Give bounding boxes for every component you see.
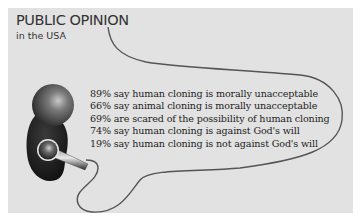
statement-text: say human cloning is morally unacceptabl…: [114, 88, 318, 99]
statement-text: say human cloning is against God's will: [114, 125, 300, 136]
page-subtitle: in the USA: [16, 30, 66, 42]
page-title: PUBLIC OPINION: [16, 12, 129, 28]
statement-text: say animal cloning is morally unacceptab…: [114, 100, 317, 111]
statement-percent: 74%: [90, 125, 111, 136]
statement-percent: 69%: [90, 113, 111, 124]
figure-head: [32, 84, 74, 126]
statement-item: 19% say human cloning is not against God…: [90, 138, 330, 150]
statement-item: 66% say animal cloning is morally unacce…: [90, 100, 330, 112]
statement-item: 74% say human cloning is against God's w…: [90, 125, 330, 137]
statement-percent: 89%: [90, 88, 111, 99]
statement-percent: 66%: [90, 100, 111, 111]
statement-text: are scared of the possibility of human c…: [114, 113, 330, 124]
statement-item: 69% are scared of the possibility of hum…: [90, 113, 330, 125]
statement-item: 89% say human cloning is morally unaccep…: [90, 88, 330, 100]
statement-text: say human cloning is not against God's w…: [114, 138, 318, 149]
statement-percent: 19%: [90, 138, 111, 149]
opinion-statements: 89% say human cloning is morally unaccep…: [90, 88, 330, 150]
